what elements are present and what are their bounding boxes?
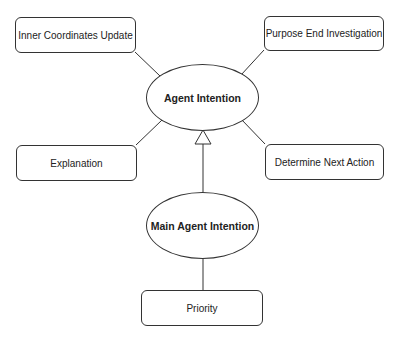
node-label: Inner Coordinates Update bbox=[18, 30, 133, 41]
edge-inner-coordinates-to-agent-intention bbox=[135, 52, 160, 76]
node-label: Agent Intention bbox=[164, 92, 241, 104]
edge-purpose-end-to-agent-intention bbox=[241, 50, 264, 75]
node-purpose-end-investigation: Purpose End Investigation bbox=[264, 16, 384, 51]
node-label: Main Agent Intention bbox=[151, 220, 254, 232]
edge-explanation-to-agent-intention bbox=[136, 120, 162, 145]
node-explanation: Explanation bbox=[16, 145, 137, 181]
node-label: Determine Next Action bbox=[275, 157, 375, 168]
node-inner-coordinates-update: Inner Coordinates Update bbox=[15, 17, 136, 53]
edge-determine-next-action-to-agent-intention bbox=[241, 119, 265, 144]
generalization-arrow-icon bbox=[195, 130, 211, 144]
node-main-agent-intention: Main Agent Intention bbox=[146, 192, 259, 259]
node-label: Explanation bbox=[50, 158, 102, 169]
node-agent-intention: Agent Intention bbox=[146, 64, 259, 131]
node-priority: Priority bbox=[141, 290, 263, 326]
node-label: Purpose End Investigation bbox=[266, 28, 383, 39]
node-label: Priority bbox=[186, 303, 217, 314]
node-determine-next-action: Determine Next Action bbox=[265, 144, 384, 180]
